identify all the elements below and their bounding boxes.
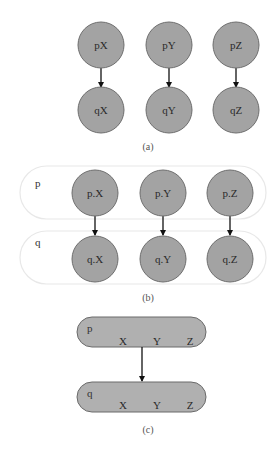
node-p.X: p.X	[72, 170, 118, 216]
caption-c: (c)	[142, 424, 153, 436]
group-p: p X Y Z	[77, 317, 206, 347]
field-Z: Z	[187, 335, 194, 347]
node-label: p.Y	[155, 187, 171, 199]
field-X: X	[119, 399, 127, 411]
node-label: q.Y	[155, 253, 171, 265]
node-p.Y: p.Y	[140, 170, 186, 216]
node-q.Y: q.Y	[140, 236, 186, 282]
node-label: p.X	[87, 187, 103, 199]
caption-b: (b)	[142, 292, 154, 304]
group-label-q: q	[87, 387, 93, 399]
node-label: pX	[94, 39, 108, 51]
group-label-p: p	[35, 177, 41, 189]
node-label: qY	[162, 104, 176, 116]
node-label: q.X	[87, 253, 103, 265]
node-qZ: qZ	[213, 87, 259, 133]
caption-a: (a)	[142, 141, 153, 153]
field-Z: Z	[187, 399, 194, 411]
group-label-p: p	[87, 322, 93, 334]
panel-a: pX pY pZ qX qY qZ (a)	[78, 22, 259, 153]
panel-b: p q p.X p.Y p.Z q.X q.Y q.Z (b)	[20, 166, 266, 304]
node-q.X: q.X	[72, 236, 118, 282]
node-qY: qY	[146, 87, 192, 133]
diagram-canvas: pX pY pZ qX qY qZ (a) p q	[0, 0, 280, 457]
node-qX: qX	[78, 87, 124, 133]
node-p.Z: p.Z	[207, 170, 253, 216]
field-X: X	[119, 335, 127, 347]
group-q: q X Y Z	[77, 382, 206, 412]
field-Y: Y	[153, 335, 161, 347]
panel-c: p X Y Z q X Y Z (c)	[77, 317, 206, 436]
node-label: q.Z	[223, 253, 238, 265]
field-Y: Y	[153, 399, 161, 411]
node-pX: pX	[78, 22, 124, 68]
node-label: qX	[94, 104, 108, 116]
node-label: p.Z	[223, 187, 238, 199]
group-label-q: q	[35, 236, 41, 248]
node-label: pZ	[230, 39, 243, 51]
node-q.Z: q.Z	[207, 236, 253, 282]
node-label: qZ	[230, 104, 243, 116]
node-pY: pY	[146, 22, 192, 68]
node-pZ: pZ	[213, 22, 259, 68]
node-label: pY	[162, 39, 176, 51]
